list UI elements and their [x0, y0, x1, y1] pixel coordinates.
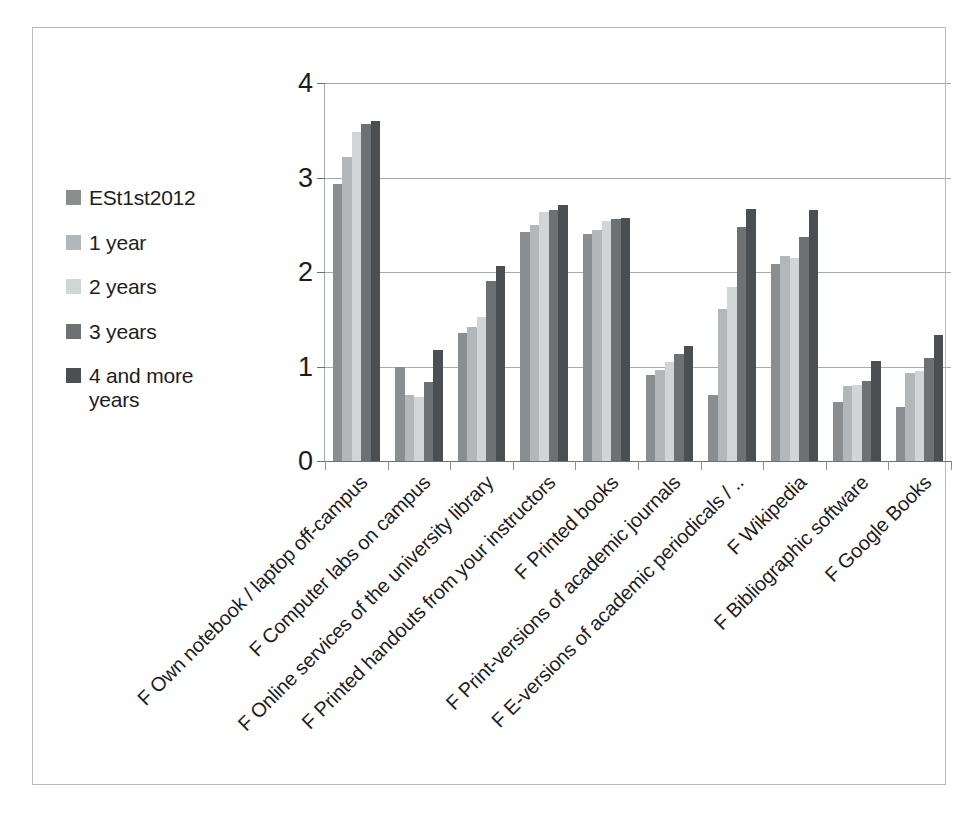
y-tick-mark: [317, 83, 325, 84]
legend-item[interactable]: 4 and more years: [66, 364, 246, 411]
x-axis-label: F Google Books: [820, 471, 936, 587]
x-tick-mark: [638, 461, 639, 470]
legend-item[interactable]: 1 year: [66, 231, 246, 255]
legend-swatch-icon: [66, 279, 81, 294]
bar[interactable]: [790, 258, 800, 461]
chart-frame: ESt1st20121 year2 years3 years4 and more…: [32, 27, 946, 785]
bar[interactable]: [684, 346, 694, 461]
bar[interactable]: [780, 256, 790, 461]
x-tick-mark: [325, 461, 326, 470]
x-tick-mark: [513, 461, 514, 470]
bar[interactable]: [737, 227, 747, 461]
bar[interactable]: [915, 371, 925, 461]
bar[interactable]: [467, 327, 477, 461]
bar-series-container: [325, 83, 951, 461]
x-tick-mark: [575, 461, 576, 470]
bar[interactable]: [896, 407, 906, 461]
bar[interactable]: [809, 210, 819, 461]
x-axis-label: F Print-versions of academic journals: [442, 471, 686, 715]
bar[interactable]: [414, 397, 424, 461]
x-tick-mark: [388, 461, 389, 470]
x-tick-mark: [888, 461, 889, 470]
bar[interactable]: [539, 212, 549, 461]
y-tick-mark: [317, 178, 325, 179]
x-tick-mark: [450, 461, 451, 470]
legend-item-label: 4 and more years: [89, 364, 219, 411]
bar[interactable]: [727, 287, 737, 461]
bar[interactable]: [708, 395, 718, 461]
legend-swatch-icon: [66, 368, 81, 383]
bar-group: [450, 83, 513, 461]
bar-group: [826, 83, 889, 461]
bar[interactable]: [852, 385, 862, 461]
bar-group: [325, 83, 388, 461]
bar-group: [763, 83, 826, 461]
bar[interactable]: [905, 373, 915, 461]
bar-group: [388, 83, 451, 461]
bar[interactable]: [371, 121, 381, 461]
legend-item[interactable]: 2 years: [66, 275, 246, 299]
legend-item-label: ESt1st2012: [89, 186, 196, 210]
legend-swatch-icon: [66, 235, 81, 250]
plot-area: 43210: [325, 83, 951, 461]
bar[interactable]: [433, 350, 443, 462]
bar[interactable]: [405, 395, 415, 461]
legend-item-label: 1 year: [89, 231, 146, 255]
y-tick-label: 0: [298, 446, 313, 477]
y-tick-mark: [317, 367, 325, 368]
legend-item-label: 2 years: [89, 275, 156, 299]
bar[interactable]: [477, 317, 487, 461]
bar[interactable]: [771, 264, 781, 461]
y-tick-mark: [317, 272, 325, 273]
bar[interactable]: [496, 266, 506, 461]
y-tick-label: 4: [298, 68, 313, 99]
bar[interactable]: [361, 124, 371, 461]
bar[interactable]: [486, 281, 496, 461]
legend-item[interactable]: 3 years: [66, 320, 246, 344]
bar-group: [888, 83, 951, 461]
bar[interactable]: [352, 132, 362, 461]
bar[interactable]: [611, 219, 621, 461]
legend-swatch-icon: [66, 190, 81, 205]
x-axis-label: F Own notebook / laptop off-campus: [133, 471, 372, 710]
x-tick-mark: [763, 461, 764, 470]
bar[interactable]: [862, 381, 872, 461]
x-tick-mark: [701, 461, 702, 470]
bar[interactable]: [871, 361, 881, 461]
bar-group: [638, 83, 701, 461]
legend-item[interactable]: ESt1st2012: [66, 186, 246, 210]
bar-group: [575, 83, 638, 461]
bar-group: [513, 83, 576, 461]
x-tick-mark: [826, 461, 827, 470]
bar[interactable]: [333, 184, 343, 461]
bar[interactable]: [530, 225, 540, 461]
bar[interactable]: [424, 382, 434, 461]
bar[interactable]: [646, 375, 656, 461]
bar[interactable]: [934, 335, 944, 461]
chart-legend: ESt1st20121 year2 years3 years4 and more…: [66, 186, 246, 432]
bar[interactable]: [583, 234, 593, 461]
bar[interactable]: [655, 370, 665, 461]
bar[interactable]: [833, 402, 843, 461]
bar[interactable]: [592, 230, 602, 461]
y-tick-label: 2: [298, 257, 313, 288]
bar[interactable]: [602, 221, 612, 461]
bar[interactable]: [843, 386, 853, 461]
bar[interactable]: [674, 354, 684, 461]
legend-swatch-icon: [66, 324, 81, 339]
bar[interactable]: [520, 232, 530, 461]
x-tick-mark: [951, 461, 952, 470]
bar[interactable]: [621, 218, 631, 461]
bar[interactable]: [458, 333, 468, 461]
bar[interactable]: [549, 210, 559, 461]
bar[interactable]: [746, 209, 756, 461]
bar[interactable]: [718, 309, 728, 461]
bar[interactable]: [665, 362, 675, 461]
bar[interactable]: [558, 205, 568, 461]
bar[interactable]: [924, 358, 934, 461]
bar[interactable]: [799, 237, 809, 461]
y-tick-label: 3: [298, 162, 313, 193]
legend-item-label: 3 years: [89, 320, 156, 344]
bar[interactable]: [342, 157, 352, 461]
bar[interactable]: [395, 367, 405, 462]
